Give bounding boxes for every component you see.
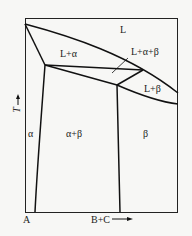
x-axis-label: B+C xyxy=(91,215,110,225)
region-L: L xyxy=(120,25,126,35)
region-L-alpha-beta: L+α+β xyxy=(131,47,159,57)
region-L-beta: L+β xyxy=(144,84,161,94)
alpha-solvus xyxy=(35,65,45,212)
beta-solvus xyxy=(117,85,120,212)
region-beta: β xyxy=(143,129,148,139)
region-alpha-beta: α+β xyxy=(66,129,82,139)
y-axis-label: T xyxy=(12,107,22,113)
region-alpha: α xyxy=(28,129,33,139)
region-L-alpha: L+α xyxy=(60,49,77,59)
x-arrow-head-icon xyxy=(127,217,133,221)
phase-diagram xyxy=(0,0,192,236)
leader-line xyxy=(112,58,128,73)
x-origin-label: A xyxy=(23,215,30,225)
t-arrow-head-icon xyxy=(16,94,20,99)
alpha-solidus xyxy=(25,24,45,65)
beta-line xyxy=(117,70,143,85)
